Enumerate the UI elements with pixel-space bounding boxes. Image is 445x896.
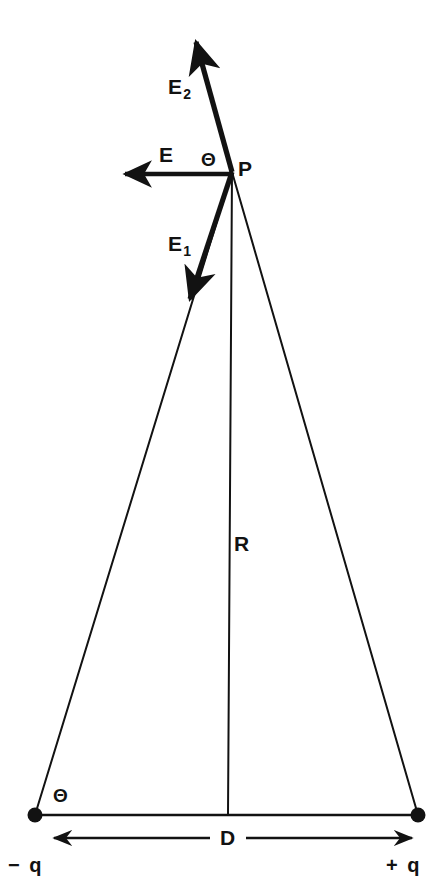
label-theta-at-base: Θ	[53, 786, 68, 805]
label-point-p: P	[238, 158, 252, 179]
label-E2: E2	[168, 76, 190, 97]
label-theta-at-point: Θ	[201, 150, 216, 169]
dipole-field-diagram: E2 E1 E Θ P R Θ D − q + q	[0, 0, 445, 896]
triangle-right-side	[232, 172, 418, 815]
negative-charge-dot	[28, 808, 43, 823]
label-E1-subscript: 1	[183, 243, 191, 259]
diagram-canvas	[0, 0, 445, 896]
triangle-construction-lines	[35, 172, 418, 815]
label-distance-r: R	[234, 533, 249, 554]
label-E1-base: E	[168, 232, 182, 255]
vector-E1	[190, 172, 232, 299]
label-E-resultant: E	[159, 144, 173, 165]
label-separation-d: D	[220, 827, 235, 848]
label-negative-charge: − q	[8, 855, 43, 875]
perpendicular-bisector-line	[228, 172, 232, 815]
label-E2-base: E	[168, 75, 182, 98]
label-E2-subscript: 2	[183, 86, 191, 102]
label-positive-charge: + q	[386, 855, 421, 875]
positive-charge-dot	[411, 808, 426, 823]
label-E1: E1	[168, 233, 190, 254]
